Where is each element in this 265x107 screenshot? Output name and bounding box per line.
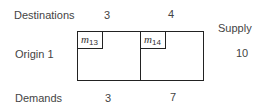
cell-origin1-dest4: m14: [141, 32, 204, 80]
transportation-table: m13 m14: [77, 31, 204, 81]
destinations-label: Destinations: [14, 9, 75, 21]
destination-4-number: 4: [168, 8, 174, 20]
demand-dest4: 7: [170, 91, 176, 103]
cost-box-m13: m13: [78, 32, 103, 49]
supply-label: Supply: [218, 22, 252, 34]
demands-label: Demands: [15, 92, 62, 104]
destination-3-number: 3: [104, 9, 110, 21]
supply-value: 10: [236, 47, 248, 59]
demand-dest3: 3: [105, 92, 111, 104]
origin-label: Origin 1: [15, 48, 54, 60]
cell-origin1-dest3: m13: [78, 32, 141, 80]
cost-box-m14: m14: [141, 32, 166, 49]
